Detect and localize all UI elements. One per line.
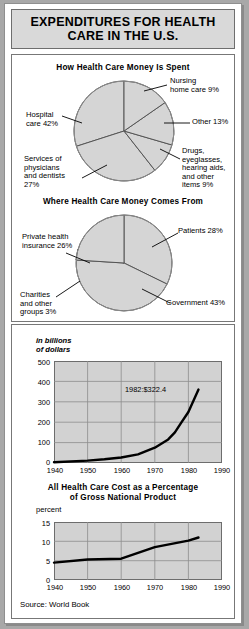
label-physicians: Services of physicians and dentists 27% xyxy=(24,155,88,189)
xtick-1960b: 1960 xyxy=(107,583,137,592)
xtick-1950: 1950 xyxy=(73,466,103,475)
pie-charts-panel: How Health Care Money Is Spent xyxy=(11,54,235,322)
source-note: Source: World Book xyxy=(20,600,89,609)
pie-comes-heading: Where Health Care Money Comes From xyxy=(12,197,234,206)
xtick-1960: 1960 xyxy=(107,466,137,475)
xtick-1990b: 1990 xyxy=(207,583,237,592)
ytick-15: 15 xyxy=(24,519,50,528)
percent-axis-label: percent xyxy=(36,506,61,515)
label-patients: Patients 28% xyxy=(178,227,238,236)
ytick-200: 200 xyxy=(24,418,50,427)
xtick-1970b: 1970 xyxy=(140,583,170,592)
percent-line-series xyxy=(54,522,222,580)
ytick-100: 100 xyxy=(24,438,50,447)
xtick-1980: 1980 xyxy=(174,466,204,475)
page-title: EXPENDITURES FOR HEALTH CARE IN THE U.S. xyxy=(11,9,235,49)
label-private-insurance: Private health insurance 26% xyxy=(22,233,94,250)
infographic-frame: EXPENDITURES FOR HEALTH CARE IN THE U.S.… xyxy=(4,3,242,624)
label-nursing: Nursing home care 9% xyxy=(170,77,234,94)
title-line-1: EXPENDITURES FOR HEALTH xyxy=(31,15,216,29)
xtick-1940: 1940 xyxy=(40,466,70,475)
xtick-1970: 1970 xyxy=(140,466,170,475)
line-charts-panel: in billions of dollars 500 400 300 200 1… xyxy=(11,324,235,619)
billions-line-series xyxy=(54,361,222,463)
billions-axis-label: in billions of dollars xyxy=(36,337,71,355)
ytick-10: 10 xyxy=(24,538,50,547)
xtick-1950b: 1950 xyxy=(73,583,103,592)
label-charities: Charities and other groups 3% xyxy=(20,291,78,317)
ytick-5: 5 xyxy=(24,557,50,566)
xtick-1990: 1990 xyxy=(207,466,237,475)
label-hospital: Hospital care 42% xyxy=(26,111,88,128)
xtick-1940b: 1940 xyxy=(40,583,70,592)
ytick-300: 300 xyxy=(24,398,50,407)
ytick-500: 500 xyxy=(24,358,50,367)
ytick-400: 400 xyxy=(24,378,50,387)
billions-annotation: 1982:$322.4 xyxy=(125,385,166,394)
xtick-1980b: 1980 xyxy=(174,583,204,592)
label-drugs: Drugs, eyeglasses, hearing aids, and oth… xyxy=(182,147,238,190)
title-line-2: CARE IN THE U.S. xyxy=(68,29,179,43)
label-other: Other 13% xyxy=(192,118,242,127)
pie-spent-heading: How Health Care Money Is Spent xyxy=(12,63,234,72)
percent-chart-heading: All Health Care Cost as a Percentage of … xyxy=(12,483,234,503)
label-government: Government 43% xyxy=(166,299,236,308)
